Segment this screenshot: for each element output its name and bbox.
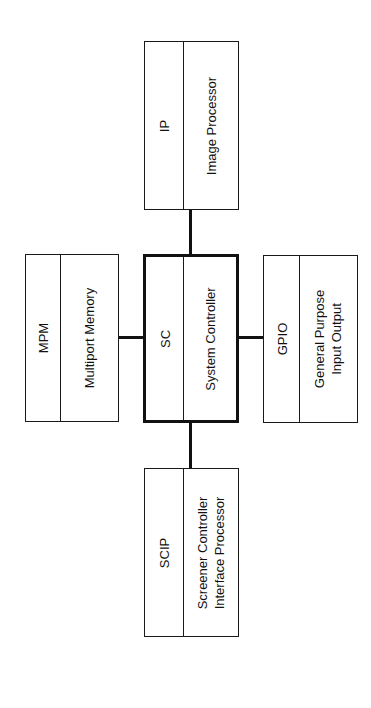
block-name: Multiport Memory: [81, 288, 98, 388]
block-name-cell: Screener Controller Interface Processor: [183, 469, 238, 636]
block-name-cell: Image Processor: [183, 42, 238, 209]
block-abbr: MPM: [35, 323, 52, 353]
connector-sc-scip: [189, 421, 192, 469]
block-name: Screener Controller Interface Processor: [194, 496, 228, 609]
block-abbr-cell: MPM: [26, 255, 61, 421]
block-name: System Controller: [201, 287, 218, 390]
block-screener-controller-interface-processor: SCIP Screener Controller Interface Proce…: [144, 468, 239, 637]
block-abbr: SC: [156, 329, 173, 347]
connector-sc-ip: [189, 209, 192, 255]
block-name: Image Processor: [202, 76, 219, 174]
block-abbr: GPIO: [273, 323, 290, 356]
block-multiport-memory: MPM Multiport Memory: [25, 254, 119, 422]
block-general-purpose-io: GPIO General Purpose Input Output: [263, 255, 358, 423]
block-abbr-cell: IP: [145, 42, 184, 209]
block-name: General Purpose Input Output: [311, 290, 345, 388]
block-abbr: SCIP: [156, 537, 173, 567]
connector-sc-gpio: [237, 336, 264, 339]
block-image-processor: IP Image Processor: [144, 41, 239, 210]
connector-sc-mpm: [118, 336, 145, 339]
block-abbr-cell: GPIO: [264, 256, 300, 422]
block-abbr-cell: SCIP: [145, 469, 184, 636]
block-name-cell: System Controller: [183, 257, 236, 420]
block-name-cell: Multiport Memory: [60, 255, 118, 421]
block-name-cell: General Purpose Input Output: [299, 256, 357, 422]
block-abbr: IP: [156, 119, 173, 131]
block-abbr-cell: SC: [146, 257, 184, 420]
block-system-controller: SC System Controller: [143, 254, 239, 423]
